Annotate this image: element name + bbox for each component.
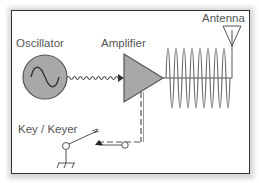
arrow-head-icon xyxy=(118,74,124,82)
contact-terminal-icon xyxy=(122,142,128,148)
oscillator-icon xyxy=(23,55,67,99)
ground-icon xyxy=(57,163,75,168)
amplifier-label: Amplifier xyxy=(101,37,146,49)
transmitter-diagram: Oscillator Amplifier Antenna Key / Keyer xyxy=(0,0,259,183)
oscillator-label: Oscillator xyxy=(16,37,64,49)
carrier-wave-small xyxy=(67,77,118,80)
key-label: Key / Keyer xyxy=(18,123,78,135)
antenna-label: Antenna xyxy=(202,12,245,24)
